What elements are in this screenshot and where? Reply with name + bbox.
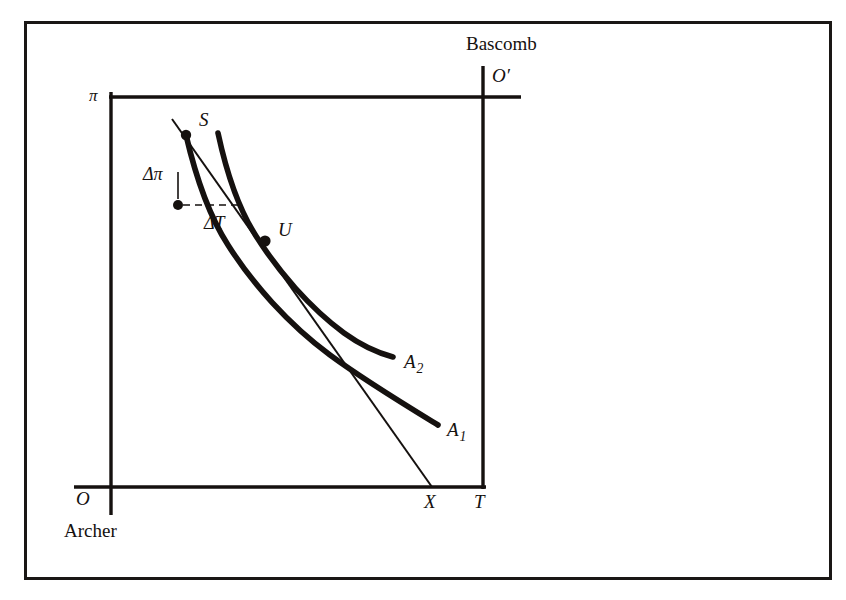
label-origin-archer: O — [76, 489, 90, 508]
label-archer-caption: Archer — [64, 521, 117, 540]
label-curve-a2-subscript: 2 — [416, 361, 424, 376]
label-origin-bascomb: O′ — [492, 66, 510, 85]
label-delta-pi: Δπ — [143, 165, 163, 183]
diagram-canvas — [0, 0, 846, 600]
label-point-u: U — [278, 220, 292, 239]
label-curve-a2: A2 — [404, 352, 423, 375]
label-point-s: S — [199, 110, 209, 129]
label-curve-a1-subscript: 1 — [459, 429, 467, 444]
label-point-x: X — [424, 492, 436, 511]
label-curve-a1: A1 — [447, 420, 466, 443]
label-delta-t: ΔT — [204, 214, 225, 232]
label-axis-pi: π — [89, 87, 98, 104]
label-axis-t: T — [474, 492, 485, 511]
point-U-dot — [259, 235, 270, 246]
label-bascomb-caption: Bascomb — [466, 34, 537, 53]
point-S-dot — [181, 130, 191, 140]
label-curve-a2-base: A — [404, 351, 416, 372]
label-curve-a1-base: A — [447, 419, 459, 440]
figure-root: Bascomb O′ π O Archer X T S U Δπ ΔT A2 A… — [0, 0, 846, 600]
delta-corner-dot — [173, 200, 183, 210]
